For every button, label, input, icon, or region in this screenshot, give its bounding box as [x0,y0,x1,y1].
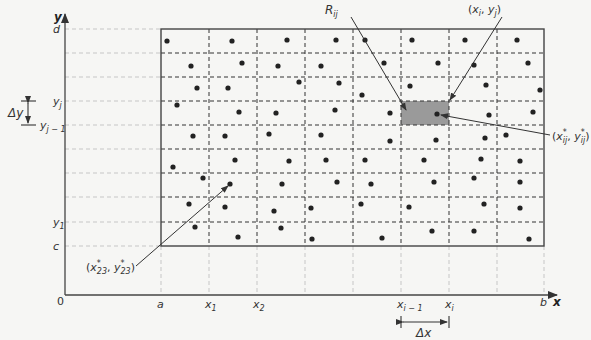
delta-y-label: Δy [7,106,24,120]
sample-point-dot [235,234,240,239]
sample-point-dot [517,179,522,184]
leader-line-Rij [351,17,406,110]
sample-point-dot [526,236,531,241]
sample-point-dot [334,179,339,184]
sample-point-dot [309,236,314,241]
sample-point-dot [222,204,227,209]
sample-point-dot [333,37,338,42]
x-tick-label: a [157,298,164,311]
y-axis-label: y [54,10,63,24]
sample-point-dot [222,133,227,138]
sample-point-dot [308,205,313,210]
sample-point-dot [358,201,363,206]
sample-point-dot [275,63,280,68]
x-tick-label: x2 [252,298,265,313]
sample-point-dot [192,224,197,229]
sample-point-dot [362,157,367,162]
sample-point-dot [387,138,392,143]
sample-ij-label: (x*ij, y*ij) [552,128,590,145]
sample-point-dot [368,181,373,186]
sample-point-dot [359,92,364,97]
y-tick-labels: dyjyj − 1y1c [39,23,66,253]
sample-point-dot [186,201,191,206]
sample-point-dot [174,102,179,107]
sample-point-dot [387,110,392,115]
sample-point-dot [478,156,483,161]
sample-point-dot [503,132,508,137]
sample-point-dot [239,60,244,65]
sample-23-label: (x*23, y*23) [86,259,135,276]
sample-point-dot [517,205,522,210]
sample-point-dot [190,133,195,138]
sample-point-dot [236,109,241,114]
sample-point-dot [200,175,205,180]
sample-point-dot [323,157,328,162]
sample-point-dot [188,63,193,68]
sample-point-dot [483,82,488,87]
sample-point-dot [318,132,323,137]
sample-points [164,37,542,241]
x-tick-label: x1 [204,298,217,313]
sample-point-dot [525,60,530,65]
y-tick-label: c [53,240,59,253]
sample-point-dot [266,131,271,136]
sample-point-dot [429,228,434,233]
sample-point-dot [296,79,301,84]
delta-x-label: Δx [415,326,432,340]
diagram-canvas: x y 0 ax1x2xi − 1xib dyjyj − 1y1c Δy Δx … [0,0,591,340]
sample-point-dot [227,181,232,186]
sample-point-dot [194,85,199,90]
sample-point-dot [271,208,276,213]
sample-point-dot [481,201,486,206]
sample-point-dot [407,83,412,88]
sample-point-dot [284,37,289,42]
sample-point-dot [164,38,169,43]
sample-point-dot [225,85,230,90]
Rij-label: Rij [325,3,339,19]
sample-point-dot [170,164,175,169]
corner-point-label: (xi, yj) [468,3,501,18]
x-tick-label: xi [444,298,455,313]
leader-line-sample-23 [136,186,228,266]
x-tick-labels: ax1x2xi − 1xib [157,296,547,313]
sample-point-dot [273,110,278,115]
sample-point-dot [537,87,542,92]
y-tick-label: yj − 1 [39,119,66,134]
sample-point-dot [433,137,438,142]
sample-point-dot [421,157,426,162]
sample-point-dot [336,80,341,85]
sample-point-dot [482,135,487,140]
sample-point-dot [406,204,411,209]
sample-point-dot [471,175,476,180]
sample-point-dot [379,235,384,240]
y-tick-label: d [53,23,61,36]
shaded-subrectangle-Rij [401,101,449,125]
y-tick-label: yj [52,95,63,110]
y-tick-label: y1 [52,216,65,231]
origin-label: 0 [57,295,64,308]
sample-point-dot [286,158,291,163]
sample-point-dot [530,109,535,114]
sample-point-dot [229,38,234,43]
sample-point-dot [409,37,414,42]
sample-point-dot [435,60,440,65]
sample-point-dot [318,63,323,68]
sample-point-dot [431,179,436,184]
sample-point-dot [471,228,476,233]
sample-point-dot [514,37,519,42]
sample-point-dot [232,157,237,162]
sample-point-dot [332,107,337,112]
sample-point-dot [517,158,522,163]
sample-point-dot [279,181,284,186]
sample-point-dot [486,112,491,117]
x-axis-label: x [552,295,562,309]
sample-point-dot [434,111,439,116]
sample-point-dot [278,225,283,230]
double-integral-diagram: x y 0 ax1x2xi − 1xib dyjyj − 1y1c Δy Δx … [0,0,591,340]
sample-point-dot [381,60,386,65]
x-tick-label: b [540,296,547,309]
sample-point-dot [462,37,467,42]
x-tick-label: xi − 1 [396,298,423,313]
